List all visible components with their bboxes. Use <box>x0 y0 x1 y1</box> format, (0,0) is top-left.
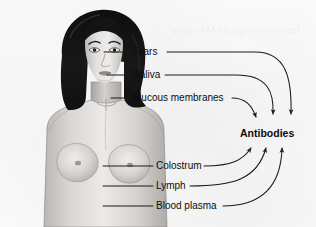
label-mucous-membranes: Mucous membranes <box>133 92 224 103</box>
label-antibodies: Antibodies <box>240 128 294 139</box>
arrow-mucous-membranes <box>232 98 256 117</box>
label-lymph: Lymph <box>156 180 186 191</box>
callout-lines-layer <box>0 0 316 227</box>
diagram-canvas: Immunological Memory <box>0 0 316 227</box>
arrow-blood-plasma <box>223 148 282 206</box>
label-saliva: Saliva <box>133 69 160 80</box>
label-colostrum: Colostrum <box>156 160 202 171</box>
label-blood-plasma: Blood plasma <box>156 200 217 211</box>
label-tears: Tears <box>133 46 157 57</box>
arrow-colostrum <box>204 148 251 166</box>
